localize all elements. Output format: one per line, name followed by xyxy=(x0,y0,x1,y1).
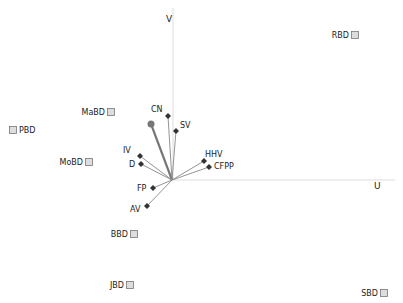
square-marker-icon xyxy=(108,109,115,116)
variable-label: CFPP xyxy=(214,162,234,171)
variable-vectors: CNSVIVDHHVCFPPFPAV xyxy=(123,105,234,214)
sample-point-bbd: BBD xyxy=(111,230,138,239)
u-axis-label: U xyxy=(374,181,381,191)
diamond-marker-icon xyxy=(173,128,179,134)
sample-point-sbd: SBD xyxy=(361,289,387,298)
variable-label: CN xyxy=(151,105,163,114)
sample-point-rbd: RBD xyxy=(332,31,359,40)
sample-label: MoBD xyxy=(60,158,83,167)
sample-point-jbd: JBD xyxy=(109,281,134,290)
variable-label: AV xyxy=(130,205,141,214)
square-marker-icon xyxy=(10,127,17,134)
square-marker-icon xyxy=(352,32,359,39)
variable-vector-cfpp: CFPP xyxy=(172,162,234,180)
diamond-marker-icon xyxy=(206,164,212,170)
v-axis-label: V xyxy=(166,14,173,24)
variable-vector-sv: SV xyxy=(172,121,191,180)
highlight-vector-end-icon xyxy=(148,121,155,128)
diamond-marker-icon xyxy=(150,185,156,191)
diamond-marker-icon xyxy=(138,161,144,167)
variable-label: FP xyxy=(137,184,147,193)
sample-point-mabd: MaBD xyxy=(82,108,115,117)
variable-label: HHV xyxy=(205,150,223,159)
sample-point-mobd: MoBD xyxy=(60,158,93,167)
sample-label: SBD xyxy=(361,289,378,298)
sample-point-pbd: PBD xyxy=(10,126,36,135)
variable-label: IV xyxy=(123,146,131,155)
sample-label: JBD xyxy=(109,281,124,290)
sample-label: BBD xyxy=(111,230,128,239)
diamond-marker-icon xyxy=(165,113,171,119)
square-marker-icon xyxy=(86,159,93,166)
square-marker-icon xyxy=(131,231,138,238)
variable-label: SV xyxy=(180,121,191,130)
square-marker-icon xyxy=(127,282,134,289)
sample-label: RBD xyxy=(332,31,349,40)
variable-vector-fp: FP xyxy=(137,180,172,193)
sample-label: PBD xyxy=(19,126,35,135)
square-marker-icon xyxy=(381,290,388,297)
variable-label: D xyxy=(129,160,135,169)
sample-label: MaBD xyxy=(82,108,105,117)
biplot-chart: UV CNSVIVDHHVCFPPFPAV RBDMaBDPBDMoBDBBDJ… xyxy=(0,0,403,303)
